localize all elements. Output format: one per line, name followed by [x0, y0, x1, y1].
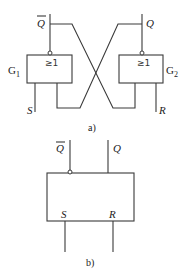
diagram-a: ≥1 G1 Q S ≥1 G2 Q R a): [8, 14, 178, 134]
r-pin-label-b: R: [108, 208, 116, 220]
r-label: R: [158, 104, 166, 116]
caption-a: a): [88, 122, 96, 134]
inversion-bubble-g2: [140, 51, 144, 55]
s-pin-label-b: S: [61, 208, 67, 220]
caption-b: b): [86, 257, 94, 269]
q-label: Q: [146, 17, 154, 29]
feedback-line-q-to-g1: [57, 24, 142, 108]
sr-latch-diagram: ≥1 G1 Q S ≥1 G2 Q R a) Q Q: [0, 0, 186, 278]
inversion-bubble-b: [68, 170, 72, 174]
feedback-line-qbar-to-g2: [50, 24, 135, 108]
gate-g2-label: G2: [166, 64, 178, 79]
gate-g2-symbol: ≥1: [137, 58, 150, 68]
diagram-b: Q Q S R b): [47, 140, 134, 269]
s-label: S: [27, 104, 33, 116]
q-bar-label: Q: [37, 17, 45, 29]
inversion-bubble-g1: [48, 51, 52, 55]
gate-g1-symbol: ≥1: [45, 58, 58, 68]
q-bar-label-b: Q: [56, 142, 64, 154]
q-label-b: Q: [113, 142, 121, 154]
gate-g1-label: G1: [8, 64, 20, 79]
